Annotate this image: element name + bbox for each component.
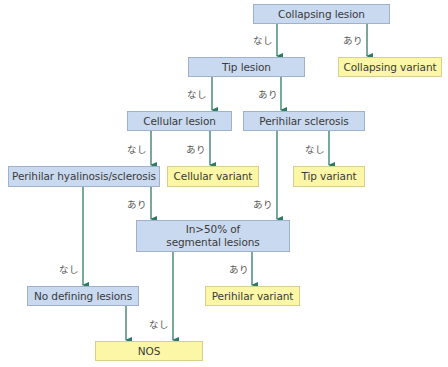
edge-label-no: なし [187, 87, 207, 101]
edge-label-yes: あり [253, 197, 273, 211]
edge-label-yes: あり [127, 197, 147, 211]
node-perihilar-variant: Perihilar variant [205, 286, 300, 306]
edge-label-yes: あり [186, 142, 206, 156]
edge-label-no: なし [149, 317, 169, 331]
node-nos: NOS [95, 341, 203, 361]
segmental-line2: segmental lesions [166, 236, 259, 249]
node-collapsing-variant: Collapsing variant [338, 57, 442, 77]
node-tip-lesion: Tip lesion [188, 57, 305, 77]
node-no-defining-lesions: No defining lesions [27, 286, 139, 306]
node-tip-variant: Tip variant [293, 166, 365, 187]
edge-label-yes: あり [343, 33, 363, 47]
node-segmental-lesions: In>50% of segmental lesions [136, 220, 290, 252]
edge-label-no: なし [253, 33, 273, 47]
edge-label-no: なし [59, 262, 79, 276]
edge-label-yes: あり [258, 87, 278, 101]
node-perihilar-sclerosis: Perihilar sclerosis [243, 111, 365, 131]
edge-label-no: なし [127, 142, 147, 156]
node-collapsing-lesion: Collapsing lesion [253, 4, 390, 24]
node-cellular-lesion: Cellular lesion [127, 111, 232, 131]
edge-label-yes: あり [229, 262, 249, 276]
node-cellular-variant: Cellular variant [167, 166, 259, 187]
segmental-line1: In>50% of [186, 223, 240, 236]
node-perihilar-hyalinosis: Perihilar hyalinosis/sclerosis [8, 166, 160, 187]
edge-label-no: なし [305, 142, 325, 156]
